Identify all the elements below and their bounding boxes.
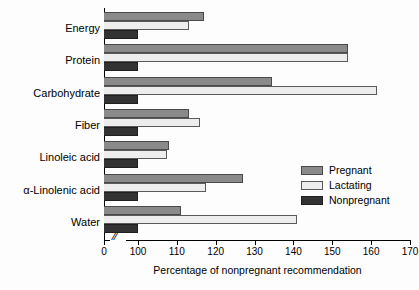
- bar-pregnant-carbohydrate: [104, 77, 272, 86]
- legend-label-pregnant: Pregnant: [329, 164, 372, 176]
- x-axis-tick: [177, 241, 178, 245]
- legend-item-lactating: Lactating: [301, 178, 413, 192]
- category-label-linoleic-acid: Linoleic acid: [2, 151, 100, 163]
- category-label-water: Water: [2, 216, 100, 228]
- category-label-carbohydrate: Carbohydrate: [2, 87, 100, 99]
- bar-nonpregnant-linoleic-acid: [104, 159, 138, 168]
- x-axis-tick-label: 120: [207, 246, 224, 257]
- legend-item-pregnant: Pregnant: [301, 163, 413, 177]
- legend-swatch-nonpregnant: [301, 196, 323, 205]
- x-axis-tick-label: 0: [101, 246, 107, 257]
- x-axis-title: Percentage of nonpregnant recommendation: [104, 264, 411, 276]
- legend-swatch-pregnant: [301, 166, 323, 175]
- x-axis-tick-label: 150: [324, 246, 341, 257]
- x-axis-tick: [332, 241, 333, 245]
- bar-nonpregnant-linolenic-acid: [104, 192, 138, 201]
- bar-pregnant-protein: [104, 44, 348, 53]
- bar-lactating-water: [104, 215, 297, 224]
- bar-pregnant-water: [104, 206, 181, 215]
- bar-lactating-carbohydrate: [104, 86, 377, 95]
- bar-nonpregnant-protein: [104, 62, 138, 71]
- bar-nonpregnant-energy: [104, 30, 138, 39]
- bar-nonpregnant-fiber: [104, 127, 138, 136]
- legend-swatch-lactating: [301, 181, 323, 190]
- x-axis-tick-label: 140: [285, 246, 302, 257]
- y-axis-category-labels: EnergyProteinCarbohydrateFiberLinoleic a…: [0, 0, 100, 240]
- category-label-fiber: Fiber: [2, 119, 100, 131]
- bar-lactating-linolenic-acid: [104, 183, 206, 192]
- chart-figure: EnergyProteinCarbohydrateFiberLinoleic a…: [0, 0, 419, 290]
- bar-pregnant-linolenic-acid: [104, 174, 243, 183]
- bar-pregnant-fiber: [104, 109, 189, 118]
- x-axis-tick: [216, 241, 217, 245]
- bar-lactating-protein: [104, 53, 348, 62]
- x-axis-tick: [104, 241, 105, 245]
- x-axis-tick: [293, 241, 294, 245]
- legend-label-nonpregnant: Nonpregnant: [329, 194, 390, 206]
- legend-label-lactating: Lactating: [329, 179, 372, 191]
- x-axis-tick: [371, 241, 372, 245]
- bar-lactating-fiber: [104, 118, 200, 127]
- bar-lactating-energy: [104, 21, 189, 30]
- bar-pregnant-energy: [104, 12, 204, 21]
- category-label-linolenic-acid: α-Linolenic acid: [2, 184, 100, 196]
- x-axis-tick-label: 100: [130, 246, 147, 257]
- legend-item-nonpregnant: Nonpregnant: [301, 193, 413, 207]
- x-axis-tick-label: 160: [363, 246, 380, 257]
- bar-pregnant-linoleic-acid: [104, 141, 169, 150]
- bar-nonpregnant-carbohydrate: [104, 95, 138, 104]
- x-axis-tick: [138, 241, 139, 245]
- category-label-protein: Protein: [2, 54, 100, 66]
- x-axis-line: [104, 240, 411, 241]
- category-label-energy: Energy: [2, 22, 100, 34]
- bar-lactating-linoleic-acid: [104, 150, 167, 159]
- bar-nonpregnant-water: [104, 224, 138, 233]
- x-axis-tick-label: 130: [246, 246, 263, 257]
- x-axis-tick: [255, 241, 256, 245]
- x-axis-tick: [410, 241, 411, 245]
- chart-legend: PregnantLactatingNonpregnant: [301, 163, 413, 208]
- x-axis-tick-label: 170: [402, 246, 419, 257]
- x-axis-tick-label: 110: [169, 246, 185, 257]
